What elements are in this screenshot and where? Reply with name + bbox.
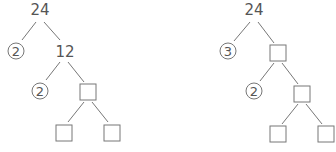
root-number: 24 (244, 1, 263, 19)
factor-tree-left: 24 2 12 2 (8, 1, 120, 141)
root-number: 24 (30, 1, 49, 19)
svg-text:2: 2 (36, 84, 44, 99)
blank-box[interactable] (56, 125, 72, 141)
circled-factor: 2 (246, 83, 262, 99)
circled-factor: 2 (32, 83, 48, 99)
circled-factor: 2 (8, 43, 24, 59)
blank-box[interactable] (80, 84, 96, 100)
svg-text:3: 3 (224, 44, 232, 59)
blank-box[interactable] (294, 86, 310, 102)
blank-box[interactable] (318, 126, 334, 142)
svg-text:2: 2 (12, 44, 20, 59)
blank-box[interactable] (270, 126, 286, 142)
blank-box[interactable] (104, 125, 120, 141)
factor-tree-right: 24 3 2 (220, 1, 334, 142)
svg-text:2: 2 (250, 84, 258, 99)
composite-number: 12 (55, 43, 74, 61)
circled-factor: 3 (220, 43, 236, 59)
blank-box[interactable] (270, 45, 286, 61)
factor-trees: 24 2 12 2 24 3 2 (0, 0, 336, 152)
